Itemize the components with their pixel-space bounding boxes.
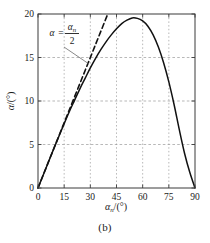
figure-container: 0153045607590 05101520 αn/(°) α/(°) α = … <box>0 0 210 243</box>
y-tick-label: 15 <box>25 53 35 63</box>
y-tick-label: 10 <box>25 96 35 106</box>
y-tick-label: 20 <box>25 9 35 19</box>
x-tick-label: 75 <box>164 192 174 202</box>
svg-text:αn/(°): αn/(°) <box>105 201 127 213</box>
x-tick-label: 30 <box>86 192 96 202</box>
annotation-denominator: 2 <box>70 36 75 46</box>
figure-caption: (b) <box>0 221 210 233</box>
x-tick-label: 15 <box>59 192 69 202</box>
y-tick-labels: 05101520 <box>25 9 35 193</box>
x-axis-title: αn/(°) <box>105 201 127 213</box>
x-tick-label: 90 <box>190 192 200 202</box>
svg-text:α/(°): α/(°) <box>5 92 17 111</box>
annotation-equals: = <box>58 28 63 38</box>
y-axis-title: α/(°) <box>5 92 17 111</box>
y-axis-unit: /(°) <box>5 92 17 105</box>
x-tick-label: 60 <box>138 192 148 202</box>
y-tick-label: 5 <box>29 140 34 150</box>
y-tick-label: 0 <box>29 183 34 193</box>
chart-plot: 0153045607590 05101520 αn/(°) α/(°) α = … <box>0 0 210 243</box>
x-tick-label: 0 <box>36 192 41 202</box>
x-axis-unit: /(°) <box>114 201 127 213</box>
annotation-numerator-subscript: n <box>73 26 77 33</box>
